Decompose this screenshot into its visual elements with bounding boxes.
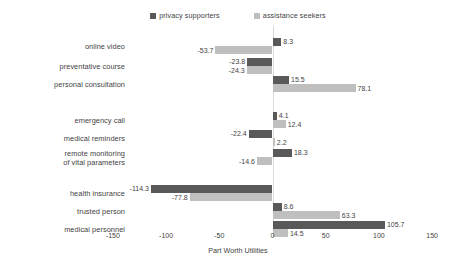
axis-tick-150: 150 — [426, 232, 438, 239]
axis-tick-100: 100 — [373, 232, 385, 239]
bar-assistance-seekers-remote-monitoring-of-vital-parameters[interactable] — [257, 157, 273, 165]
axis-tick-50: 50 — [322, 232, 330, 239]
bar-assistance-seekers-personal-consultation[interactable] — [273, 84, 356, 92]
chart-legend: privacy supporters assistance seekers — [0, 11, 476, 20]
zero-axis-line — [273, 26, 274, 232]
bar-privacy-supporters-remote-monitoring-of-vital-parameters[interactable] — [273, 149, 292, 157]
axis-title: Part Worth Utilities — [0, 246, 476, 255]
bar-privacy-supporters-emergency-call[interactable] — [273, 112, 277, 120]
value-label-privacy-supporters-medical-personnel: 105.7 — [387, 221, 405, 229]
value-label-privacy-supporters-online-video: 8.3 — [283, 38, 293, 46]
legend-item-assistance-seekers[interactable]: assistance seekers — [254, 11, 326, 20]
bar-assistance-seekers-online-video[interactable] — [215, 46, 272, 54]
bar-field: 8.3-53.7-23.8-24.315.578.14.112.4-22.42.… — [0, 26, 476, 232]
value-label-privacy-supporters-emergency-call: 4.1 — [279, 112, 289, 120]
axis-tick--50: -50 — [214, 232, 224, 239]
value-label-privacy-supporters-health-insurance: -114.3 — [130, 185, 149, 193]
bar-privacy-supporters-online-video[interactable] — [273, 38, 282, 46]
bar-privacy-supporters-trusted-person[interactable] — [273, 203, 282, 211]
value-label-privacy-supporters-trusted-person: 8.6 — [284, 203, 294, 211]
value-label-assistance-seekers-online-video: -53.7 — [197, 47, 213, 55]
legend-label-privacy-supporters: privacy supporters — [159, 11, 220, 20]
value-label-privacy-supporters-personal-consultation: 15.5 — [291, 76, 305, 84]
value-label-assistance-seekers-trusted-person: 63.3 — [342, 212, 356, 220]
value-label-assistance-seekers-medical-reminders: 2.2 — [277, 139, 287, 147]
legend-swatch-assistance-seekers — [254, 13, 260, 19]
value-label-assistance-seekers-health-insurance: -77.8 — [172, 194, 188, 202]
bar-assistance-seekers-health-insurance[interactable] — [190, 193, 273, 201]
axis-tick-0: 0 — [271, 232, 275, 239]
bar-assistance-seekers-emergency-call[interactable] — [273, 120, 286, 128]
value-label-privacy-supporters-medical-reminders: -22.4 — [231, 130, 247, 138]
bar-privacy-supporters-medical-personnel[interactable] — [273, 221, 385, 229]
bar-assistance-seekers-medical-reminders[interactable] — [273, 138, 275, 146]
plot-area: online videopreventative coursepersonal … — [0, 26, 476, 232]
axis-tick--100: -100 — [159, 232, 173, 239]
legend-swatch-privacy-supporters — [150, 13, 156, 19]
value-label-assistance-seekers-preventative-course: -24.3 — [229, 67, 245, 75]
value-axis: Part Worth Utilities -150-100-5005010015… — [0, 232, 476, 269]
bar-privacy-supporters-preventative-course[interactable] — [247, 58, 272, 66]
bar-assistance-seekers-trusted-person[interactable] — [273, 211, 340, 219]
bar-privacy-supporters-personal-consultation[interactable] — [273, 76, 289, 84]
bar-assistance-seekers-preventative-course[interactable] — [247, 66, 273, 74]
value-label-assistance-seekers-personal-consultation: 78.1 — [358, 85, 372, 93]
legend-label-assistance-seekers: assistance seekers — [263, 11, 326, 20]
bar-privacy-supporters-medical-reminders[interactable] — [249, 130, 273, 138]
bar-privacy-supporters-health-insurance[interactable] — [151, 185, 273, 193]
value-label-assistance-seekers-emergency-call: 12.4 — [288, 121, 302, 129]
value-label-privacy-supporters-remote-monitoring-of-vital-parameters: 18.3 — [294, 149, 308, 157]
axis-tick--150: -150 — [106, 232, 120, 239]
value-label-privacy-supporters-preventative-course: -23.8 — [229, 58, 245, 66]
part-worth-utilities-chart: privacy supporters assistance seekers on… — [0, 0, 476, 269]
value-label-assistance-seekers-remote-monitoring-of-vital-parameters: -14.6 — [239, 158, 255, 166]
legend-item-privacy-supporters[interactable]: privacy supporters — [150, 11, 220, 20]
